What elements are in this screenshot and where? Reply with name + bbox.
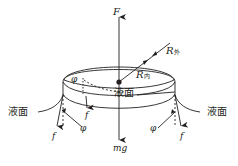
label-R-inner: R内: [136, 70, 150, 80]
label-phi-left: φ: [80, 124, 86, 133]
label-f-right: f: [180, 132, 183, 141]
label-R-outer: R外: [166, 46, 180, 56]
liquid-surface-left-curve: [38, 95, 63, 112]
R-inner-symbol: R: [136, 69, 144, 80]
R-inner-subscript: 内: [144, 72, 150, 79]
label-f-left-outer: f: [52, 132, 55, 141]
label-f-left-inner: f: [85, 111, 88, 120]
label-liquid-surface-right: 液面: [207, 107, 227, 117]
label-phi-inner: φ: [71, 75, 77, 84]
force-f-right-arrow: [175, 95, 181, 126]
R-outer-symbol: R: [166, 45, 174, 56]
center-point: [116, 79, 121, 84]
force-f-left-inner-arrow: [86, 96, 87, 108]
label-phi-right: φ: [150, 124, 156, 133]
R-outer-subscript: 外: [174, 48, 180, 55]
ring-surface-tension-diagram: F mg R外 R内 液面 液面 液面 φ φ φ f f f: [0, 0, 238, 166]
label-liquid-surface-left: 液面: [8, 107, 28, 117]
label-liquid-surface-center: 液面: [114, 88, 134, 98]
diagram-canvas: [0, 0, 238, 166]
label-F: F: [113, 7, 120, 17]
liquid-surface-right-curve: [175, 95, 200, 112]
label-mg: mg: [113, 144, 127, 153]
